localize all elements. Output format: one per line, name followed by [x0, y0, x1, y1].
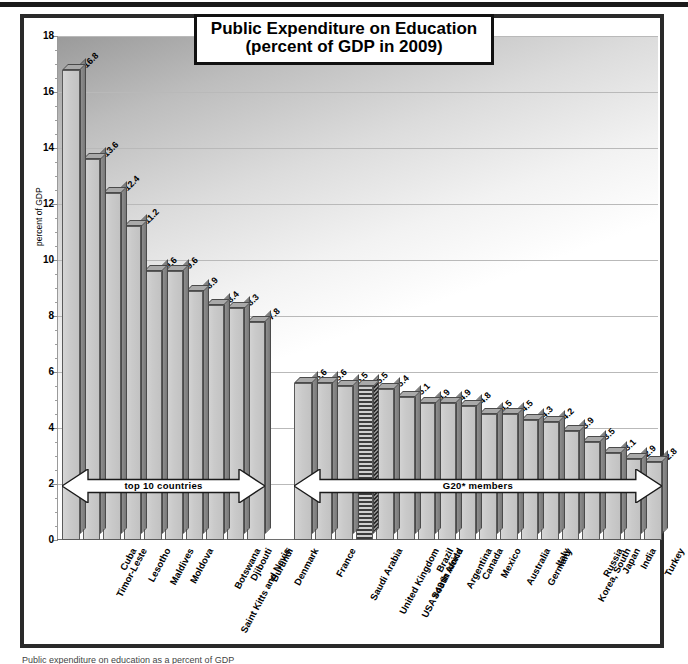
bar-side-face	[435, 391, 441, 534]
bar-side-face	[353, 374, 359, 534]
chart-title-box: Public Expenditure on Education (percent…	[194, 14, 494, 65]
plot-area: percent of GDP 024681012141618 16.813.61…	[58, 36, 658, 540]
x-category-label: France	[333, 546, 357, 579]
group-annotation-arrow: G20* members	[294, 469, 662, 503]
y-minor-tick	[55, 218, 58, 219]
y-tick-label: 0	[14, 534, 54, 545]
group-annotation-arrow: top 10 countries	[62, 469, 265, 503]
y-tick-label: 12	[14, 198, 54, 209]
y-tick-label: 4	[14, 422, 54, 433]
y-minor-tick	[55, 50, 58, 51]
y-minor-tick	[55, 470, 58, 471]
y-axis-title: percent of GDP	[34, 187, 44, 246]
chart-frame: percent of GDP 024681012141618 16.813.61…	[20, 14, 664, 648]
y-tick-label: 8	[14, 310, 54, 321]
y-minor-tick	[55, 400, 58, 401]
bar-side-face	[456, 391, 462, 534]
bar-side-face	[332, 371, 338, 534]
x-category-label: Turkey	[662, 546, 686, 578]
y-tick-label: 18	[14, 30, 54, 41]
bar-side-face	[80, 58, 86, 534]
bar-side-face	[394, 377, 400, 534]
y-minor-tick	[55, 120, 58, 121]
y-minor-tick	[55, 344, 58, 345]
bar-side-face	[373, 374, 379, 534]
y-minor-tick	[55, 162, 58, 163]
y-minor-tick	[55, 232, 58, 233]
chart-subtitle: (percent of GDP in 2009)	[205, 38, 483, 56]
y-minor-tick	[55, 302, 58, 303]
gridline	[58, 204, 658, 205]
group-annotation-label: G20* members	[294, 469, 662, 503]
bar-side-face	[662, 450, 668, 534]
y-minor-tick	[55, 274, 58, 275]
y-tick-label: 16	[14, 86, 54, 97]
gridline	[58, 92, 658, 93]
bar-side-face	[476, 394, 482, 534]
y-minor-tick	[55, 498, 58, 499]
y-minor-tick	[55, 288, 58, 289]
y-minor-tick	[55, 64, 58, 65]
y-minor-tick	[55, 386, 58, 387]
group-annotation-label: top 10 countries	[62, 469, 265, 503]
y-tick-label: 2	[14, 478, 54, 489]
y-minor-tick	[55, 190, 58, 191]
y-tick-label: 14	[14, 142, 54, 153]
y-tick-label: 6	[14, 366, 54, 377]
bar	[376, 389, 394, 540]
bar-side-face	[312, 371, 318, 534]
y-minor-tick	[55, 176, 58, 177]
gridline	[58, 148, 658, 149]
y-minor-tick	[55, 246, 58, 247]
y-minor-tick	[55, 78, 58, 79]
bar	[294, 383, 312, 540]
y-tick-label: 10	[14, 254, 54, 265]
bar-front-face	[294, 383, 312, 540]
bar-side-face	[415, 385, 421, 534]
bar	[247, 322, 265, 540]
top-black-bar	[0, 2, 688, 7]
x-category-label: Denmark	[292, 546, 321, 587]
y-minor-tick	[55, 358, 58, 359]
y-minor-tick	[55, 442, 58, 443]
y-minor-tick	[55, 512, 58, 513]
bar-front-face	[247, 322, 265, 540]
y-minor-tick	[55, 134, 58, 135]
bar-front-face	[376, 389, 394, 540]
y-minor-tick	[55, 414, 58, 415]
y-minor-tick	[55, 456, 58, 457]
y-minor-tick	[55, 106, 58, 107]
y-minor-tick	[55, 526, 58, 527]
footnote: Public expenditure on education as a per…	[22, 655, 662, 664]
bar-side-face	[265, 310, 271, 534]
y-minor-tick	[55, 330, 58, 331]
gridline	[58, 260, 658, 261]
x-category-label: Saudi Arabia	[368, 546, 405, 602]
page-title: Public Expenditure on Education	[205, 20, 483, 38]
